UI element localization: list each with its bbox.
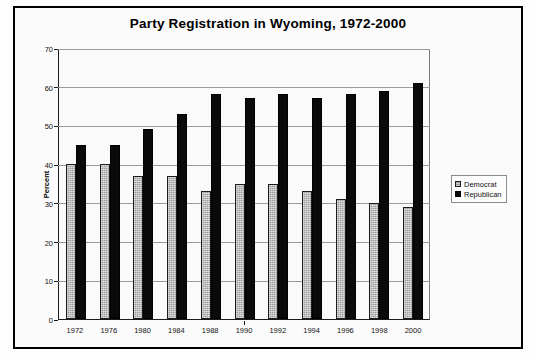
bar-republican-1980 <box>143 129 153 319</box>
bar-republican-1976 <box>110 145 120 319</box>
bar-democrat-1998 <box>369 203 379 319</box>
x-axis-tick-label: 1992 <box>261 326 295 335</box>
y-axis-tick-mark <box>54 165 58 166</box>
bar-republican-1992 <box>278 94 288 319</box>
y-axis-tick-mark <box>54 203 58 204</box>
x-axis-tick-label: 1990 <box>227 326 261 335</box>
chart-frame: Party Registration in Wyoming, 1972-2000… <box>13 6 523 349</box>
bar-group <box>126 49 160 319</box>
y-axis-tick-label: 10 <box>45 277 53 286</box>
chart-legend: Democrat Republican <box>451 175 507 203</box>
bar-republican-1990 <box>245 98 255 319</box>
bar-groups <box>59 49 430 319</box>
plot-area-wrapper: 010203040506070 <box>58 49 430 320</box>
y-axis-tick-mark <box>54 126 58 127</box>
bar-group <box>396 49 430 319</box>
legend-item-democrat: Democrat <box>455 179 502 189</box>
bar-democrat-1972 <box>66 164 76 319</box>
y-axis-tick-label: 60 <box>45 83 53 92</box>
x-axis-tick-mark <box>244 321 245 325</box>
y-axis-tick-mark <box>54 320 58 321</box>
y-axis-tick-label: 0 <box>49 316 53 325</box>
bar-democrat-1980 <box>133 176 143 319</box>
y-axis-title-text: Percent <box>42 171 51 199</box>
bar-democrat-1996 <box>336 199 346 319</box>
bar-group <box>160 49 194 319</box>
x-axis-tick-label: 1972 <box>58 326 92 335</box>
bar-group <box>295 49 329 319</box>
x-axis-tick-label: 1996 <box>329 326 363 335</box>
bar-republican-2000 <box>413 83 423 319</box>
legend-label-democrat: Democrat <box>464 180 497 189</box>
legend-swatch-republican-icon <box>455 191 461 197</box>
chart-page: Party Registration in Wyoming, 1972-2000… <box>0 0 536 360</box>
bar-republican-1972 <box>76 145 86 319</box>
bar-democrat-1984 <box>167 176 177 319</box>
x-axis-tick-label: 1980 <box>126 326 160 335</box>
y-axis-tick-mark <box>54 87 58 88</box>
bar-group <box>363 49 397 319</box>
y-axis-tick-label: 40 <box>45 161 53 170</box>
y-axis-tick-label: 30 <box>45 199 53 208</box>
bar-group <box>59 49 93 319</box>
bar-group <box>194 49 228 319</box>
bar-democrat-1992 <box>268 184 278 320</box>
bar-republican-1994 <box>312 98 322 319</box>
bar-democrat-1976 <box>100 164 110 319</box>
bar-republican-1996 <box>346 94 356 319</box>
x-axis-tick-label: 1988 <box>193 326 227 335</box>
bar-group <box>329 49 363 319</box>
bar-democrat-2000 <box>403 207 413 319</box>
bar-group <box>228 49 262 319</box>
legend-label-republican: Republican <box>464 190 502 199</box>
y-axis-tick-label: 50 <box>45 122 53 131</box>
legend-item-republican: Republican <box>455 189 502 199</box>
bar-democrat-1994 <box>302 191 312 319</box>
y-axis-tick-mark <box>54 242 58 243</box>
x-axis-labels: 1972197619801984198819901992199419961998… <box>58 326 430 335</box>
bar-democrat-1988 <box>201 191 211 319</box>
x-axis-tick-label: 1976 <box>92 326 126 335</box>
y-axis-tick-mark <box>54 49 58 50</box>
x-axis-tick-label: 1998 <box>362 326 396 335</box>
legend-swatch-democrat-icon <box>455 181 461 187</box>
bar-republican-1984 <box>177 114 187 319</box>
bar-group <box>93 49 127 319</box>
bar-republican-1998 <box>379 91 389 319</box>
y-axis-tick-label: 20 <box>45 238 53 247</box>
chart-title: Party Registration in Wyoming, 1972-2000 <box>15 16 521 31</box>
x-axis-tick-label: 1984 <box>159 326 193 335</box>
bar-democrat-1990 <box>235 184 245 320</box>
bar-republican-1988 <box>211 94 221 319</box>
x-axis-tick-label: 1994 <box>295 326 329 335</box>
y-axis-tick-label: 70 <box>45 45 53 54</box>
bar-group <box>261 49 295 319</box>
x-axis-tick-label: 2000 <box>396 326 430 335</box>
y-axis-tick-mark <box>54 281 58 282</box>
